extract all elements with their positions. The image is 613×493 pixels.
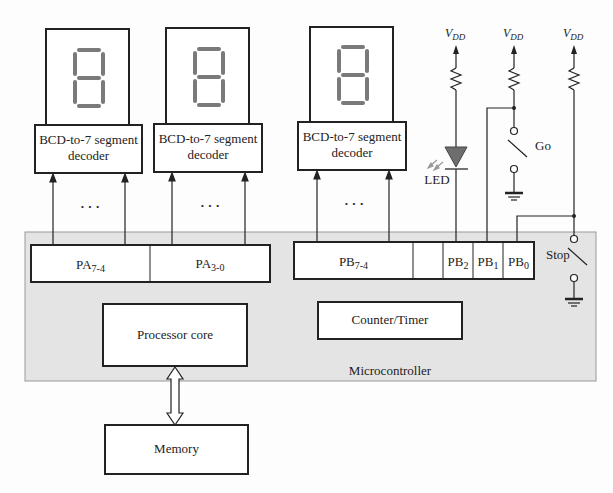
diagram-canvas [0,0,613,493]
port-pb0: PB0 [503,254,534,274]
decoder-label-line2: decoder [298,145,406,161]
port-pa-7-4: PA7-4 [31,257,150,277]
port-base: PB [508,254,524,269]
port-base: PA [76,257,91,272]
port-pb-7-4: PB7-4 [294,254,413,274]
port-sub: 7-4 [355,260,368,271]
vdd-sub: DD [452,32,465,42]
counter-timer-label: Counter/Timer [318,312,462,328]
microcontroller-label: Microcontroller [320,363,460,379]
port-pb2: PB2 [443,254,473,274]
port-base: PB [339,254,355,269]
vdd-label-1: VDD [445,26,465,42]
port-sub: 1 [493,260,498,271]
junction-dots [512,106,576,218]
ellipsis-3: · · · [334,196,374,212]
port-sub: 0 [524,260,529,271]
port-base: PB [448,254,464,269]
decoder-label-2: BCD-to-7 segment decoder [154,131,262,163]
decoder-label-3: BCD-to-7 segment decoder [298,129,406,161]
ellipsis-2: · · · [190,198,230,214]
decoder-label-line1: BCD-to-7 segment [298,129,406,145]
vdd-label-2: VDD [503,26,523,42]
vdd-sub: DD [570,32,583,42]
ellipsis-1: · · · [70,199,110,215]
vdd-sub: DD [510,32,523,42]
decoder-label-line1: BCD-to-7 segment [35,132,142,148]
decoder-label-line1: BCD-to-7 segment [154,131,262,147]
decoder-label-1: BCD-to-7 segment decoder [35,132,142,164]
memory-label: Memory [105,441,248,457]
port-pb1: PB1 [473,254,503,274]
port-sub: 3-0 [211,262,224,273]
port-sub: 7-4 [92,263,105,274]
decoder-label-line2: decoder [154,147,262,163]
port-base: PB [478,254,494,269]
bidirectional-bus-arrow-icon [167,367,183,425]
decoder-label-line2: decoder [35,148,142,164]
vdd-arrow-icons [453,45,577,54]
go-switch-label: Go [530,138,556,154]
led-label: LED [419,172,455,188]
vdd-label-3: VDD [563,26,583,42]
port-base: PA [196,256,211,271]
processor-core-label: Processor core [103,327,247,343]
stop-switch-label: Stop [546,247,580,263]
port-pa-3-0: PA3-0 [150,256,270,276]
led-diode-icon [428,147,468,170]
port-sub: 2 [463,260,468,271]
